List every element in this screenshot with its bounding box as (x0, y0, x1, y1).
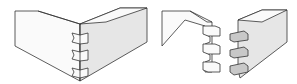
socket-1 (230, 31, 248, 42)
exploded-dovetail-joint (162, 10, 287, 78)
dovetail-diagram (0, 0, 297, 84)
assembled-dovetail-joint (15, 8, 147, 81)
socket-2 (230, 47, 248, 58)
left-board-face (15, 11, 80, 81)
